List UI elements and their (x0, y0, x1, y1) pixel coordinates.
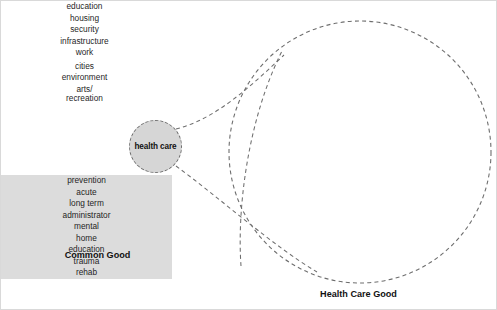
cell-label: home (76, 234, 97, 244)
health-care-good-grid: prevention acute long term administrator… (1, 175, 172, 310)
upper-magnifier-connector (176, 55, 284, 129)
cell-label: infrastructure (60, 37, 108, 47)
health-care-cell-rehab[interactable]: rehab (1, 267, 172, 279)
common-good-cell-security[interactable]: security (1, 24, 168, 36)
cell-label: mental (74, 222, 99, 232)
cell-label: prevention (67, 176, 106, 186)
health-care-cell-long-term[interactable]: long term (1, 198, 172, 210)
common-good-cell-work[interactable]: work (1, 47, 168, 59)
cell-label: arts/ recreation (66, 85, 103, 104)
cell-label: environment (62, 73, 108, 83)
health-care-cell-home[interactable]: home (1, 233, 172, 245)
common-good-cell-environment[interactable]: environment (1, 72, 168, 84)
cell-label: long term (69, 199, 104, 209)
cell-label: education (67, 2, 103, 12)
cell-label: work (76, 48, 94, 58)
common-good-cell-education[interactable]: education (1, 1, 168, 13)
upper-inner-connector (240, 51, 282, 266)
cell-label: rehab (76, 268, 97, 278)
cell-label: acute (76, 188, 96, 198)
cell-label: security (70, 25, 99, 35)
common-good-caption: Common Good (14, 250, 181, 260)
health-care-bubble-label: health care (134, 142, 176, 151)
cell-label: administrator (63, 211, 111, 221)
health-care-cell-administrator[interactable]: administrator (1, 210, 172, 222)
cell-label: cities (75, 62, 94, 72)
health-care-good-enclosing-circle (229, 21, 491, 283)
common-good-cell-cities[interactable]: cities (1, 61, 168, 73)
health-care-highlight-bubble[interactable]: health care (129, 120, 182, 173)
cell-label: housing (70, 14, 99, 24)
lower-magnifier-connector (176, 166, 317, 272)
health-care-cell-prevention[interactable]: prevention (1, 175, 172, 187)
common-good-cell-infrastructure[interactable]: infrastructure (1, 36, 168, 48)
health-care-good-caption: Health Care Good (273, 289, 444, 299)
health-care-cell-mental[interactable]: mental (1, 221, 172, 233)
health-care-cell-acute[interactable]: acute (1, 187, 172, 199)
common-good-cell-housing[interactable]: housing (1, 13, 168, 25)
common-good-cell-arts-recreation[interactable]: arts/ recreation (1, 84, 168, 105)
figure-canvas: education housing security infrastructur… (0, 0, 497, 310)
